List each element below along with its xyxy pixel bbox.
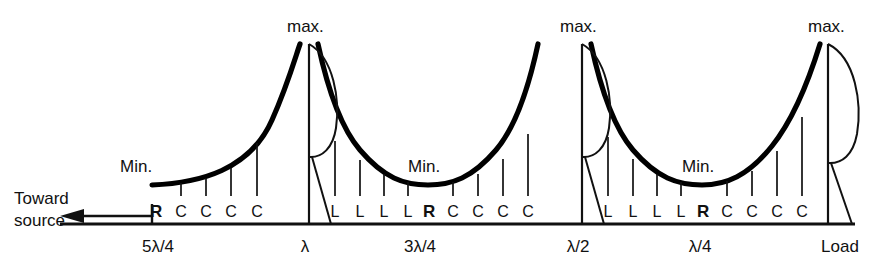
reactance-marker-c-4: C [251, 203, 263, 220]
reactance-marker-l-3: L [380, 203, 389, 220]
position-label-lambda-over-2: λ/2 [567, 237, 590, 256]
position-label-lambda: λ [301, 237, 310, 256]
reactance-marker-l-7: L [653, 203, 662, 220]
reactance-marker-c-9: C [721, 203, 733, 220]
toward-source-arrow [60, 209, 152, 223]
max-label-1: max. [287, 17, 324, 36]
standing-wave-diagram: Toward source [0, 0, 892, 269]
reactance-marker-l-1: L [331, 203, 340, 220]
reactance-marker-c-7: C [497, 203, 509, 220]
reactance-marker-c-12: C [796, 203, 808, 220]
peak-symbol-group-3 [828, 44, 859, 224]
reactance-marker-l-5: L [604, 203, 613, 220]
reactance-marker-c-10: C [746, 203, 758, 220]
reactance-marker-l-4: L [404, 203, 413, 220]
position-label-3lambda-over-4: 3λ/4 [404, 237, 436, 256]
resistance-marker-3: R [697, 202, 709, 221]
min-label-2: Min. [408, 157, 440, 176]
peak-labels: max. max. max. [287, 17, 845, 36]
resistance-marker-2: R [423, 202, 435, 221]
reactance-marker-c-1: C [175, 203, 187, 220]
min-label-1: Min. [120, 157, 152, 176]
position-label-5lambda-over-4: 5λ/4 [142, 237, 174, 256]
resistance-marker-1: R [150, 202, 162, 221]
reactance-marker-c-2: C [200, 203, 212, 220]
reactance-marker-c-3: C [225, 203, 237, 220]
toward-source-label-line1: Toward [14, 189, 69, 208]
position-label-lambda-over-4: λ/4 [689, 237, 712, 256]
reactance-marker-l-2: L [356, 203, 365, 220]
toward-source-label-line2: source [14, 211, 65, 230]
reactance-marker-c-5: C [447, 203, 459, 220]
reactance-marker-c-11: C [771, 203, 783, 220]
reactance-marker-c-8: C [522, 203, 534, 220]
reactance-marker-c-6: C [472, 203, 484, 220]
envelope-rise-segment-1 [152, 44, 300, 185]
reactance-markers: C C C C L L L L C C C C L L L L C C C C [175, 203, 808, 220]
reactance-marker-l-8: L [677, 203, 686, 220]
position-labels: 5λ/4 λ 3λ/4 λ/2 λ/4 Load [142, 237, 859, 256]
max-label-3: max. [808, 17, 845, 36]
max-label-2: max. [560, 17, 597, 36]
min-label-3: Min. [682, 157, 714, 176]
reactance-marker-l-6: L [629, 203, 638, 220]
position-label-load: Load [821, 237, 859, 256]
